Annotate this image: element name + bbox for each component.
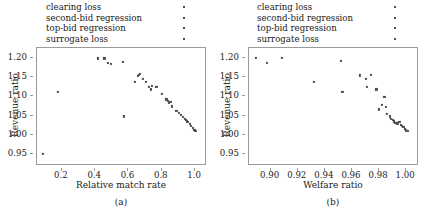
scatter-point [385,106,387,108]
x-tick-mark [351,168,352,171]
square-dot-marker-icon [183,38,185,40]
x-tick-label: 0.6 [121,170,135,180]
x-tick-mark [94,168,95,171]
scatter-point [398,121,400,123]
x-axis-label-b: Welfare ratio [248,180,418,190]
subcaption-b: (b) [248,197,418,207]
scatter-point [383,96,385,98]
y-tick-label: 0.95 [220,148,239,158]
scatter-point [57,91,59,93]
y-tick-mark [242,153,245,154]
legend-entry: second-bid regression [257,13,417,24]
scatter-point [381,104,383,106]
scatter-point [122,60,124,62]
legend-entry: second-bid regression [46,13,206,24]
x-axis-ticks-a: 0.20.40.60.81.0 [36,168,206,180]
scatter-point [266,62,268,64]
x-axis-ticks-b: 0.900.920.940.960.981.00 [248,168,418,180]
x-tick-label: 0.96 [341,170,360,180]
panel-a: clearing loss second-bid regression top-… [0,0,210,222]
x-tick-label: 0.90 [260,170,279,180]
x-tick-mark [161,168,162,171]
figure-container: clearing loss second-bid regression top-… [0,0,421,222]
legend-entry: top-bid regression [46,23,206,34]
x-tick-mark [324,168,325,171]
scatter-plot-area-a [37,48,205,164]
y-tick-label: 1.20 [8,52,27,62]
scatter-point [145,81,147,83]
x-tick-mark [270,168,271,171]
legend-entry: top-bid regression [257,23,417,34]
x-tick-mark [61,168,62,171]
scatter-point [341,91,343,93]
legend-label: clearing loss [46,2,101,13]
y-tick-mark [242,115,245,116]
legend-label: surrogate loss [257,34,319,45]
y-tick-label: 1.20 [220,52,239,62]
scatter-point [313,81,315,83]
subcaption-a: (a) [36,197,206,207]
scatter-point [155,86,157,88]
scatter-point [142,77,144,79]
x-tick-label: 1.0 [187,170,201,180]
x-tick-mark [127,168,128,171]
y-tick-mark [30,115,33,116]
y-tick-mark [242,134,245,135]
scatter-point [364,77,366,79]
scatter-point [151,85,153,87]
scatter-point [161,93,163,95]
panel-b: clearing loss second-bid regression top-… [211,0,421,222]
legend-entry: clearing loss [257,2,417,13]
y-tick-label: 0.95 [8,148,27,158]
legend-label: surrogate loss [46,34,108,45]
y-tick-mark [30,57,33,58]
square-dot-marker-icon [183,6,185,8]
scatter-point [195,130,197,132]
scatter-point [375,88,377,90]
y-tick-mark [30,153,33,154]
scatter-point [139,73,141,75]
y-axis-label-b: Revenue ratio [222,73,232,137]
scatter-plot-area-b [249,48,417,164]
scatter-point [42,152,44,154]
scatter-point [280,57,282,59]
scatter-point [255,57,257,59]
square-dot-marker-icon [183,17,185,19]
scatter-point [171,105,173,107]
scatter-point [150,88,152,90]
scatter-point [406,130,408,132]
x-tick-label: 0.94 [314,170,333,180]
y-axis-label-a: Revenue ratio [10,73,20,137]
x-tick-label: 1.00 [396,170,415,180]
x-tick-mark [297,168,298,171]
legend-label: top-bid regression [257,23,337,34]
square-dot-marker-icon [394,38,396,40]
x-tick-label: 0.92 [287,170,306,180]
plot-frame-a [36,47,206,165]
square-dot-marker-icon [394,6,396,8]
x-tick-label: 0.8 [154,170,168,180]
scatter-point [378,108,380,110]
scatter-point [366,86,368,88]
square-dot-marker-icon [183,27,185,29]
x-tick-mark [194,168,195,171]
scatter-point [103,57,105,59]
x-tick-label: 0.98 [368,170,387,180]
plot-frame-b [248,47,418,165]
y-tick-mark [30,134,33,135]
legend-label: clearing loss [257,2,312,13]
square-dot-marker-icon [394,17,396,19]
x-tick-mark [405,168,406,171]
y-tick-mark [30,95,33,96]
x-axis-label-a: Relative match rate [36,180,206,190]
y-tick-mark [30,76,33,77]
legend-label: top-bid regression [46,23,126,34]
scatter-point [370,74,372,76]
scatter-point [134,81,136,83]
x-tick-mark [378,168,379,171]
y-tick-mark [242,95,245,96]
legend-entry: surrogate loss [46,34,206,45]
y-tick-mark [242,76,245,77]
scatter-point [169,101,171,103]
legend-label: second-bid regression [46,13,142,24]
